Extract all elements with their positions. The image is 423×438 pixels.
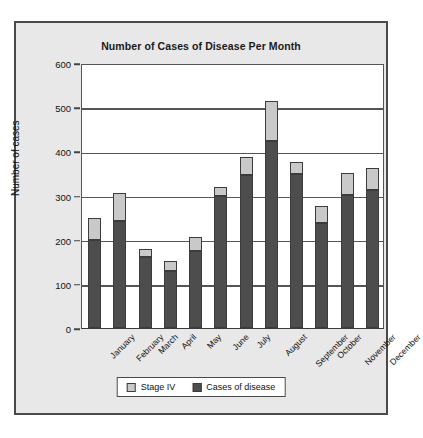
y-tick-label: 600	[55, 59, 71, 70]
bar-group[interactable]	[265, 101, 278, 328]
y-tick-label: 300	[55, 191, 71, 202]
bar-segment-stage-iv[interactable]	[341, 173, 354, 195]
legend-item[interactable]: Cases of disease	[192, 382, 275, 392]
bar-segment-cases-of-disease[interactable]	[113, 221, 126, 328]
bar-group[interactable]	[88, 218, 101, 328]
legend-swatch-icon	[127, 383, 136, 392]
gridline	[82, 285, 383, 287]
bar-group[interactable]	[290, 162, 303, 328]
bar-segment-stage-iv[interactable]	[164, 261, 177, 271]
bar-group[interactable]	[113, 193, 126, 328]
gridline	[82, 197, 383, 199]
bar-group[interactable]	[366, 168, 379, 328]
bar-segment-cases-of-disease[interactable]	[315, 223, 328, 328]
x-tick-label: July	[255, 332, 273, 350]
y-tick-label: 0	[66, 324, 71, 335]
plot-area	[81, 64, 384, 329]
gridline	[82, 153, 383, 155]
bar-segment-stage-iv[interactable]	[315, 206, 328, 223]
bar-segment-stage-iv[interactable]	[265, 101, 278, 142]
y-tick-mark	[74, 284, 80, 286]
chart-frame: Number of Cases of Disease Per Month Num…	[14, 21, 388, 415]
y-tick-label: 400	[55, 147, 71, 158]
bar-segment-stage-iv[interactable]	[88, 218, 101, 240]
y-tick-mark	[74, 196, 80, 198]
y-tick-mark	[74, 240, 80, 242]
bar-segment-cases-of-disease[interactable]	[214, 196, 227, 329]
legend-swatch-icon	[192, 383, 201, 392]
x-tick-label: May	[204, 332, 223, 351]
y-tick-mark	[74, 63, 80, 65]
y-tick-mark	[74, 107, 80, 109]
bar-segment-stage-iv[interactable]	[214, 187, 227, 196]
legend-label: Cases of disease	[206, 382, 275, 392]
y-tick-mark	[74, 152, 80, 154]
y-tick-label: 200	[55, 235, 71, 246]
bar-segment-cases-of-disease[interactable]	[240, 175, 253, 328]
gridline	[82, 241, 383, 243]
bar-group[interactable]	[139, 249, 152, 328]
bar-segment-cases-of-disease[interactable]	[290, 174, 303, 328]
bar-group[interactable]	[189, 237, 202, 328]
bar-segment-cases-of-disease[interactable]	[366, 190, 379, 328]
bar-group[interactable]	[341, 173, 354, 328]
x-tick-label: January	[108, 332, 137, 361]
y-axis: 0100200300400500600	[16, 64, 81, 329]
y-tick-label: 100	[55, 279, 71, 290]
bar-segment-stage-iv[interactable]	[366, 168, 379, 190]
bar-segment-cases-of-disease[interactable]	[189, 251, 202, 328]
chart-title: Number of Cases of Disease Per Month	[16, 40, 386, 52]
y-tick-label: 500	[55, 103, 71, 114]
bar-segment-cases-of-disease[interactable]	[88, 240, 101, 328]
bar-segment-cases-of-disease[interactable]	[265, 141, 278, 328]
gridline	[82, 108, 383, 110]
x-tick-label: August	[283, 332, 309, 358]
bar-segment-stage-iv[interactable]	[189, 237, 202, 250]
chart-legend: Stage IVCases of disease	[117, 377, 286, 397]
bar-segment-stage-iv[interactable]	[113, 193, 126, 221]
bar-segment-stage-iv[interactable]	[290, 162, 303, 174]
bar-segment-cases-of-disease[interactable]	[164, 271, 177, 328]
x-tick-label: June	[230, 332, 250, 352]
bar-segment-stage-iv[interactable]	[139, 249, 152, 257]
bar-group[interactable]	[164, 261, 177, 328]
legend-label: Stage IV	[141, 382, 176, 392]
bar-segment-stage-iv[interactable]	[240, 157, 253, 175]
bar-segment-cases-of-disease[interactable]	[341, 195, 354, 328]
x-tick-label: April	[179, 332, 198, 351]
bar-group[interactable]	[214, 187, 227, 328]
y-tick-mark	[74, 328, 80, 330]
bar-group[interactable]	[240, 157, 253, 328]
legend-item[interactable]: Stage IV	[127, 382, 176, 392]
bar-group[interactable]	[315, 206, 328, 328]
bar-segment-cases-of-disease[interactable]	[139, 257, 152, 328]
